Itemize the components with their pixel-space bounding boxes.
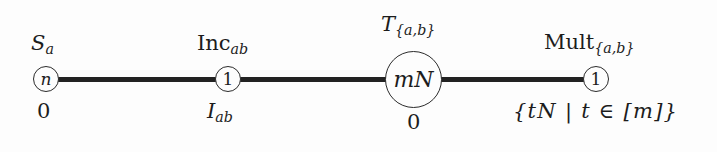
node-3-bottom-label: 0 — [407, 112, 420, 133]
node-1-top-label-base: S — [31, 31, 45, 55]
node-4-bottom-label: {tN | t ∈ [m]} — [513, 101, 678, 122]
node-2[interactable]: 1 — [215, 66, 241, 92]
node-2-inner-label: 1 — [223, 71, 234, 88]
node-4-top-label-sub: {a,b} — [594, 40, 634, 56]
node-4[interactable]: 1 — [583, 66, 609, 92]
node-3-inner-label: mN — [393, 69, 433, 91]
node-4-inner-label: 1 — [591, 71, 602, 88]
node-2-top-label-sub: ab — [231, 41, 249, 57]
graph-figure: Sa n 0 Incab 1 Iab T{a,b} mN 0 Mult{a,b}… — [0, 0, 717, 152]
node-4-bottom-label-text: {tN | t ∈ [m]} — [513, 99, 678, 123]
node-2-bottom-label-sub: ab — [215, 109, 233, 125]
node-1-bottom-label-text: 0 — [37, 99, 50, 123]
node-2-bottom-label: Iab — [207, 101, 233, 122]
node-3-top-label-base: T — [381, 12, 395, 36]
node-3-bottom-label-text: 0 — [407, 110, 420, 134]
node-1-top-label-sub: a — [45, 41, 54, 57]
node-3-top-label-sub: {a,b} — [395, 22, 435, 38]
node-3[interactable]: mN — [385, 51, 442, 108]
node-1[interactable]: n — [33, 66, 59, 92]
node-2-top-label: Incab — [197, 33, 248, 54]
node-4-top-label: Mult{a,b} — [544, 32, 635, 53]
edge-node1-node2 — [56, 77, 218, 82]
edge-node2-node3 — [238, 77, 388, 82]
edge-node3-node4 — [440, 77, 585, 82]
node-1-inner-label: n — [41, 71, 52, 88]
node-4-top-label-base: Mult — [544, 30, 594, 54]
node-2-top-label-base: Inc — [197, 31, 231, 55]
node-1-bottom-label: 0 — [37, 101, 50, 122]
node-1-top-label: Sa — [31, 33, 54, 54]
node-3-top-label: T{a,b} — [381, 14, 435, 35]
